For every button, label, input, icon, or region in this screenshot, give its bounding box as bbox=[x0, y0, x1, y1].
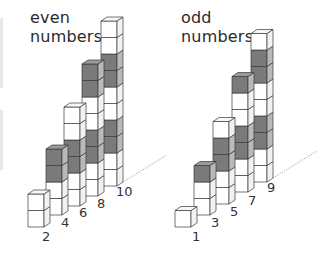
cube-front-face bbox=[46, 166, 62, 183]
cube-front-face bbox=[64, 107, 80, 124]
number-towers-diagram: even numbers odd numbers 2 4 6 8 10 1 3 … bbox=[0, 0, 334, 255]
cube-front-face bbox=[213, 138, 229, 155]
cube-front-face bbox=[28, 194, 44, 211]
cube-front-face bbox=[232, 77, 248, 94]
dotted-guide-line bbox=[273, 151, 317, 178]
cube-front-face bbox=[64, 124, 80, 141]
cube-front-face bbox=[251, 50, 267, 67]
cube-front-face bbox=[232, 93, 248, 110]
odd-label-1: 1 bbox=[192, 229, 200, 244]
even-label-6: 6 bbox=[79, 205, 87, 220]
cube-front-face bbox=[101, 38, 117, 55]
even-label-10: 10 bbox=[116, 184, 133, 199]
cube-front-face bbox=[82, 81, 98, 98]
even-label-4: 4 bbox=[61, 215, 69, 230]
cube-front-face bbox=[175, 211, 191, 228]
cube-front-face bbox=[46, 149, 62, 166]
cube-front-face bbox=[28, 211, 44, 228]
cube-front-face bbox=[101, 21, 117, 38]
cube-towers bbox=[0, 0, 334, 255]
odd-label-3: 3 bbox=[211, 215, 219, 230]
cube-front-face bbox=[194, 166, 210, 183]
odd-label-7: 7 bbox=[248, 193, 256, 208]
cube-front-face bbox=[194, 182, 210, 199]
cube-front-face bbox=[82, 64, 98, 81]
odd-label-5: 5 bbox=[230, 204, 238, 219]
odd-label-9: 9 bbox=[267, 180, 275, 195]
cube-front-face bbox=[251, 34, 267, 51]
cube-front-face bbox=[213, 122, 229, 139]
even-label-2: 2 bbox=[42, 229, 50, 244]
dotted-guide-line bbox=[123, 155, 167, 182]
even-label-8: 8 bbox=[97, 196, 105, 211]
